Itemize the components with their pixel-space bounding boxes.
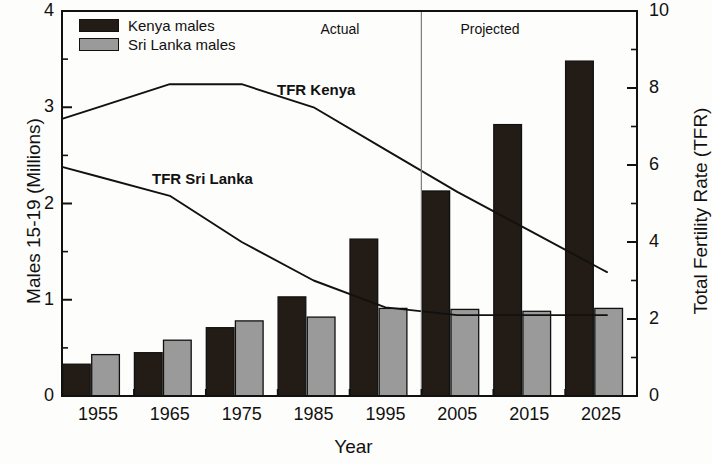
- y-tick-label-left: 1: [14, 289, 54, 310]
- x-tick-label-1955: 1955: [58, 404, 138, 425]
- lines-layer: [62, 84, 607, 315]
- y-tick-label-right: 10: [649, 0, 689, 21]
- bar-kenya-males-1985: [278, 297, 306, 396]
- period-label-projected: Projected: [440, 21, 540, 37]
- bars-layer: [63, 61, 623, 396]
- y-tick-label-left: 2: [14, 193, 54, 214]
- bar-sri-lanka-males-2025: [595, 308, 623, 396]
- bar-kenya-males-1995: [350, 239, 378, 396]
- y-tick-label-right: 8: [649, 77, 689, 98]
- legend-item-kenya-males: Kenya males: [79, 17, 236, 34]
- x-tick-label-1965: 1965: [130, 404, 210, 425]
- bar-kenya-males-2025: [566, 61, 594, 396]
- bar-sri-lanka-males-1975: [235, 321, 263, 396]
- bar-sri-lanka-males-1985: [307, 317, 335, 396]
- series-label-tfr-kenya: TFR Kenya: [277, 81, 355, 98]
- x-tick-label-2005: 2005: [417, 404, 497, 425]
- bar-sri-lanka-males-2015: [523, 311, 551, 396]
- bar-sri-lanka-males-1995: [379, 308, 407, 396]
- y-tick-label-left: 0: [14, 385, 54, 406]
- line-tfr-sri-lanka: [62, 167, 607, 315]
- bar-kenya-males-1955: [63, 364, 91, 396]
- bar-kenya-males-2015: [494, 125, 522, 396]
- chart-legend: Kenya males Sri Lanka males: [79, 17, 236, 55]
- y-tick-label-left: 4: [14, 0, 54, 21]
- y-tick-label-left: 3: [14, 96, 54, 117]
- x-axis-title: Year: [0, 436, 707, 458]
- legend-label-kenya: Kenya males: [128, 17, 215, 34]
- legend-item-sri-lanka-males: Sri Lanka males: [79, 36, 236, 53]
- line-tfr-kenya: [62, 84, 607, 272]
- x-tick-label-1995: 1995: [345, 404, 425, 425]
- bar-sri-lanka-males-2005: [451, 309, 479, 396]
- series-label-tfr-sri-lanka: TFR Sri Lanka: [152, 170, 253, 187]
- legend-label-sri-lanka: Sri Lanka males: [128, 36, 236, 53]
- y-tick-label-right: 2: [649, 308, 689, 329]
- period-label-actual: Actual: [290, 21, 390, 37]
- bar-kenya-males-1965: [134, 353, 162, 396]
- bar-kenya-males-1975: [206, 328, 234, 396]
- y-tick-label-right: 0: [649, 385, 689, 406]
- bar-sri-lanka-males-1955: [92, 355, 120, 396]
- y-tick-label-right: 6: [649, 154, 689, 175]
- bar-kenya-males-2005: [422, 191, 450, 396]
- x-tick-label-2025: 2025: [561, 404, 641, 425]
- legend-swatch-kenya: [79, 19, 119, 32]
- bar-sri-lanka-males-1965: [164, 340, 192, 396]
- x-tick-label-1985: 1985: [274, 404, 354, 425]
- y-tick-label-right: 4: [649, 231, 689, 252]
- y-axis-title-right: Total Fertility Rate (TFR): [690, 81, 712, 341]
- x-tick-label-1975: 1975: [202, 404, 282, 425]
- x-tick-label-2015: 2015: [489, 404, 569, 425]
- legend-swatch-sri-lanka: [79, 38, 119, 51]
